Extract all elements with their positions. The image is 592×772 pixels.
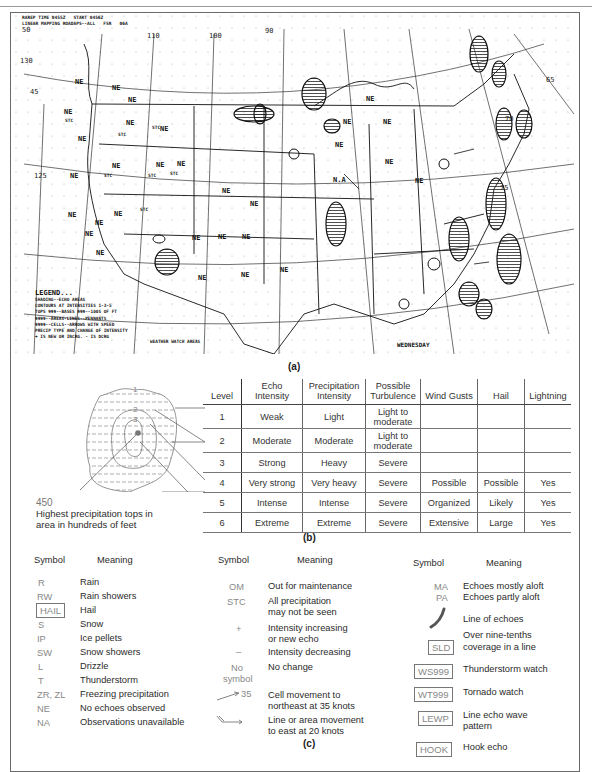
table-row: 5 Intense Intense Severe Organized Likel… bbox=[203, 493, 571, 513]
map-label-ne: NE bbox=[85, 230, 93, 238]
symbol-header: Symbol bbox=[34, 555, 65, 566]
meaning-hook-echo: Hook echo bbox=[463, 742, 507, 753]
meaning-ice-pellets: Ice pellets bbox=[80, 633, 122, 644]
hail-box: HAIL bbox=[36, 603, 65, 618]
cell-echo: Moderate bbox=[242, 429, 303, 453]
plus-icon: + bbox=[236, 624, 241, 635]
symbol-s: S bbox=[38, 620, 44, 631]
echo-contour-diagram: 1 2 3 bbox=[20, 382, 205, 492]
map-label-stc: STC bbox=[148, 173, 156, 178]
cell-echo: Weak bbox=[242, 405, 303, 429]
wt999-box: WT999 bbox=[414, 687, 453, 702]
meaning-stc-2: may not be seen bbox=[268, 607, 337, 618]
map-label-ne: NE bbox=[335, 141, 343, 149]
table-row: 6 Extreme Extreme Severe Extensive Large… bbox=[203, 513, 571, 533]
map-label-ne: NE bbox=[383, 118, 391, 126]
cell-echo: Intense bbox=[242, 493, 303, 513]
map-label-ne: NE bbox=[78, 135, 86, 143]
map-label-stc: STC bbox=[170, 171, 178, 176]
map-label-stc: STC bbox=[152, 125, 160, 130]
map-label-ne: NE bbox=[198, 274, 206, 282]
cell-wind bbox=[421, 429, 478, 453]
symbol-sw: SW bbox=[37, 648, 52, 659]
symbol-symbol: symbol bbox=[223, 674, 252, 685]
map-label-ne: NE bbox=[385, 158, 393, 166]
meaning-thunderstorm-watch: Thunderstorm watch bbox=[463, 664, 548, 675]
meaning-cell-movement-1: Cell movement to bbox=[268, 690, 340, 701]
lat-label-50: 50 bbox=[22, 26, 30, 34]
symbol-stc: STC bbox=[227, 597, 246, 608]
symbol-sld: SLD bbox=[428, 640, 454, 655]
map-label-ne: NE bbox=[95, 219, 103, 227]
meaning-drizzle: Drizzle bbox=[80, 661, 108, 672]
meaning-thunderstorm: Thunderstorm bbox=[80, 675, 138, 686]
lon-label-110: 110 bbox=[147, 32, 160, 40]
map-header: RAREP TIME 0455Z START 0456Z LINEAR MAPP… bbox=[22, 15, 128, 27]
cell-echo: Strong bbox=[242, 453, 303, 473]
table-row: 2 Moderate Moderate Light to moderate bbox=[203, 429, 571, 453]
symbol-zr-zl: ZR, ZL bbox=[37, 690, 65, 701]
cell-turb: Light to moderate bbox=[366, 405, 421, 429]
line-movement-arrow-icon bbox=[216, 714, 244, 729]
tops-note-line-2: area in hundreds of feet bbox=[36, 519, 153, 530]
contour-label-3: 3 bbox=[133, 415, 138, 424]
lat-label-125: 125 bbox=[34, 172, 47, 180]
map-label-ne: NE bbox=[112, 84, 120, 92]
sld-box: SLD bbox=[428, 640, 454, 655]
cell-turb: Severe bbox=[366, 473, 421, 493]
caption-a: (a) bbox=[288, 361, 300, 372]
meaning-header: Meaning bbox=[97, 555, 133, 566]
map-legend-line: + IS NEW OR INCRG. - IS DCRG bbox=[35, 334, 128, 340]
symbol-hook: HOOK bbox=[416, 742, 452, 757]
cell-wind: Extensive bbox=[421, 513, 478, 533]
cell-level: 6 bbox=[203, 513, 242, 533]
caption-b: (b) bbox=[303, 532, 316, 543]
map-label-ne: NE bbox=[250, 200, 258, 208]
map-label-ne: NE bbox=[160, 125, 168, 133]
cell-wind bbox=[421, 405, 478, 429]
meaning-rain-showers: Rain showers bbox=[80, 591, 136, 602]
meaning-no-change: No change bbox=[268, 662, 313, 673]
map-label-ne: NE bbox=[114, 210, 122, 218]
col-header-precip-intensity: Precipitation Intensity bbox=[303, 379, 366, 405]
cell-level: 3 bbox=[203, 453, 242, 473]
map-legend-title: LEGEND... bbox=[35, 289, 128, 297]
cell-precip: Intense bbox=[303, 493, 366, 513]
map-label-stc: STC bbox=[140, 207, 148, 212]
cell-lightning bbox=[525, 429, 572, 453]
table-header-row: Level Echo Intensity Precipitation Inten… bbox=[203, 379, 571, 405]
map-header-line-1: RAREP TIME 0455Z START 0456Z bbox=[22, 15, 103, 20]
lon-label-70: 70 bbox=[505, 115, 513, 123]
map-label-stc: STC bbox=[118, 132, 126, 137]
meaning-header: Meaning bbox=[297, 555, 333, 566]
col-header-level: Level bbox=[203, 379, 242, 405]
map-label-ne: NE bbox=[112, 162, 120, 170]
map-label-ne: NE bbox=[96, 249, 104, 257]
symbol-l: L bbox=[38, 662, 43, 673]
col-header-wind-gusts: Wind Gusts bbox=[421, 379, 478, 405]
map-label-ne: NE bbox=[75, 78, 83, 86]
meaning-tornado-watch: Tornado watch bbox=[463, 687, 523, 698]
cell-lightning: Yes bbox=[525, 513, 572, 533]
meaning-partly-aloft: Echoes partly aloft bbox=[463, 592, 539, 603]
meaning-hail: Hail bbox=[80, 605, 96, 616]
meaning-lewp-1: Line echo wave bbox=[463, 710, 528, 721]
col-header-echo-intensity: Echo Intensity bbox=[242, 379, 303, 405]
weather-watch-areas-label: WEATHER WATCH AREAS bbox=[150, 339, 200, 345]
map-label-ne: NE bbox=[192, 234, 200, 242]
symbol-wt999: WT999 bbox=[414, 687, 453, 702]
table-row: 3 Strong Heavy Severe bbox=[203, 453, 571, 473]
symbol-om: OM bbox=[229, 582, 244, 593]
symbol-header: Symbol bbox=[218, 555, 249, 566]
symbol-no: No bbox=[231, 663, 243, 674]
symbol-t: T bbox=[38, 676, 44, 687]
meaning-snow: Snow bbox=[80, 619, 103, 630]
line-of-echoes-icon bbox=[428, 607, 448, 632]
cell-hail: Large bbox=[478, 513, 525, 533]
map-label-ne: NE bbox=[177, 160, 185, 168]
minus-icon: – bbox=[236, 647, 241, 658]
symbol-header: Symbol bbox=[413, 558, 444, 569]
map-label-ne: NE bbox=[366, 95, 374, 103]
cell-hail: Likely bbox=[478, 493, 525, 513]
meaning-decreasing: Intensity decreasing bbox=[268, 647, 351, 658]
